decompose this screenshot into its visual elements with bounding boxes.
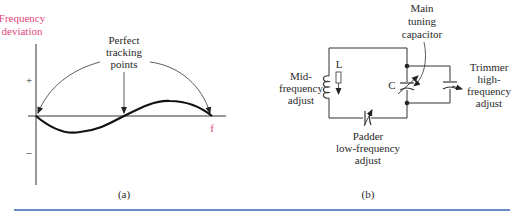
- mid-label-line3: adjust: [288, 94, 314, 106]
- padder-label-line1: Padder: [353, 130, 384, 142]
- trimmer-label-line4: adjust: [476, 97, 502, 109]
- trimmer-branch: [407, 66, 450, 103]
- panel-a-tracking-curve: Frequency deviation + – f Perfect tracki…: [0, 12, 226, 201]
- padder-label-line2: low-frequency: [336, 142, 401, 154]
- caption-b: (b): [362, 188, 375, 201]
- caption-a: (a): [118, 188, 131, 201]
- y-axis-label-line2: deviation: [2, 25, 43, 37]
- minus-sign: –: [25, 146, 32, 158]
- main-label-line3: capacitor: [402, 28, 443, 40]
- inductor-label: L: [336, 58, 343, 70]
- y-axis-label-line1: Frequency: [0, 12, 46, 24]
- arrow-left-tracking-point: [38, 62, 100, 113]
- panel-b-tuned-circuit: L Mid- frequency adjust C Trimmer high- …: [279, 2, 511, 201]
- padder-label-line3: adjust: [355, 154, 381, 166]
- mid-label-line2: frequency: [279, 82, 323, 94]
- annotation-line2: tracking: [106, 46, 143, 58]
- main-label-line2: tuning: [408, 15, 437, 27]
- main-tuning-pointer: [414, 42, 426, 86]
- trimmer-label-line3: frequency: [467, 85, 511, 97]
- annotation-line3: points: [111, 58, 138, 70]
- trimmer-label-line2: high-: [477, 73, 501, 85]
- capacitor-label: C: [388, 79, 395, 91]
- mid-label-line1: Mid-: [290, 70, 312, 82]
- inductor-slug-icon: [336, 72, 341, 83]
- arrow-right-tracking-point: [150, 62, 210, 113]
- annotation-line1: Perfect: [108, 34, 139, 46]
- plus-sign: +: [26, 74, 32, 86]
- main-label-line1: Main: [410, 2, 434, 14]
- x-axis-label: f: [210, 122, 214, 134]
- trimmer-label-line1: Trimmer: [470, 61, 509, 73]
- figure: Frequency deviation + – f Perfect tracki…: [0, 0, 522, 223]
